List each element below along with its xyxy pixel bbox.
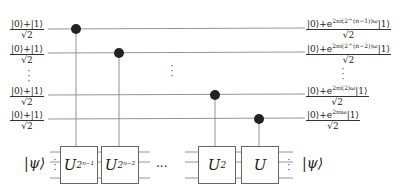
output-label-3: |0⟩+e2πiω|1⟩ √2 xyxy=(306,107,360,131)
control-dot-3 xyxy=(254,114,264,124)
control-dot-1 xyxy=(114,48,124,58)
output-label-2: |0⟩+e2πi(2)ω|1⟩ √2 xyxy=(306,83,369,107)
horizontal-ellipsis: ··· xyxy=(156,160,167,174)
gate-u: U xyxy=(241,146,279,184)
vertical-ellipsis-middle: ··· xyxy=(169,64,175,79)
control-dot-2 xyxy=(210,90,220,100)
gate-u-2-n-2: U2ⁿ⁻² xyxy=(101,146,139,184)
qubit-wire-0 xyxy=(48,28,305,29)
register-ellipsis-in: ··· xyxy=(52,158,58,173)
output-label-0: |0⟩+e2πi(2^(n−1))ω|1⟩ √2 xyxy=(306,16,391,40)
register-ellipsis-out: ··· xyxy=(286,158,292,173)
register-out-label: |ψ⟩ xyxy=(302,155,323,171)
register-in-label: |ψ⟩ xyxy=(24,155,45,171)
qubit-wire-2 xyxy=(48,94,305,95)
vertical-ellipsis-input: ··· xyxy=(26,69,32,84)
input-label-3: |0⟩+|1⟩ √2 xyxy=(10,110,44,131)
input-label-2: |0⟩+|1⟩ √2 xyxy=(10,86,44,107)
input-label-0: |0⟩+|1⟩ √2 xyxy=(10,19,44,40)
gate-u-2-n-1: U2ⁿ⁻¹ xyxy=(60,146,98,184)
output-label-1: |0⟩+e2πi(2^(n−2))ω|1⟩ √2 xyxy=(306,41,391,65)
gate-u-2: U2 xyxy=(198,146,236,184)
control-dot-0 xyxy=(71,24,81,34)
vertical-ellipsis-output: ··· xyxy=(340,67,346,82)
qubit-wire-1 xyxy=(48,52,305,53)
input-label-1: |0⟩+|1⟩ √2 xyxy=(10,44,44,65)
qubit-wire-3 xyxy=(48,118,305,119)
